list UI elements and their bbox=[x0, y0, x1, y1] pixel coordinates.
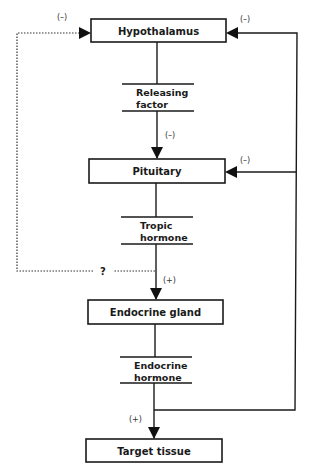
secretion-label-line1: Endocrine bbox=[134, 360, 187, 371]
sign-label: (–) bbox=[165, 131, 175, 140]
arrowhead-down-icon bbox=[150, 288, 162, 300]
secretion-label-line2: hormone bbox=[134, 372, 182, 383]
sign-label: (–) bbox=[240, 15, 250, 24]
node-label: Hypothalamus bbox=[118, 26, 199, 37]
sign-label: (+) bbox=[129, 415, 142, 424]
sign-label: (–) bbox=[240, 156, 250, 165]
secretion-label-line2: hormone bbox=[140, 232, 188, 243]
secretion-label-line1: Releasing bbox=[136, 87, 188, 98]
node-endocrine-gland: Endocrine gland bbox=[88, 300, 223, 324]
secretion-releasing-factor: Releasing factor bbox=[122, 84, 194, 111]
endocrine-feedback-diagram: Hypothalamus Pituitary Endocrine gland T… bbox=[0, 0, 311, 472]
node-label: Pituitary bbox=[132, 166, 182, 177]
arrowhead-down-icon bbox=[148, 427, 160, 439]
sign-label: (–) bbox=[57, 13, 67, 22]
node-label: Target tissue bbox=[117, 446, 191, 457]
sign-label: (+) bbox=[163, 276, 176, 285]
secretion-endocrine-hormone: Endocrine hormone bbox=[120, 357, 192, 383]
arrowhead-down-icon bbox=[151, 147, 163, 159]
unknown-marker: ? bbox=[100, 266, 106, 277]
arrowhead-left-icon bbox=[226, 27, 238, 39]
node-pituitary: Pituitary bbox=[89, 159, 225, 183]
node-target-tissue: Target tissue bbox=[86, 439, 222, 462]
node-label: Endocrine gland bbox=[110, 307, 201, 318]
secretion-tropic-hormone: Tropic hormone bbox=[121, 217, 193, 244]
secretion-label-line2: factor bbox=[136, 99, 168, 110]
node-hypothalamus: Hypothalamus bbox=[91, 19, 226, 42]
dotted-feedback-line bbox=[17, 33, 93, 271]
arrowhead-left-icon bbox=[225, 166, 237, 178]
secretion-label-line1: Tropic bbox=[140, 220, 172, 231]
arrowhead-right-icon bbox=[79, 27, 91, 39]
